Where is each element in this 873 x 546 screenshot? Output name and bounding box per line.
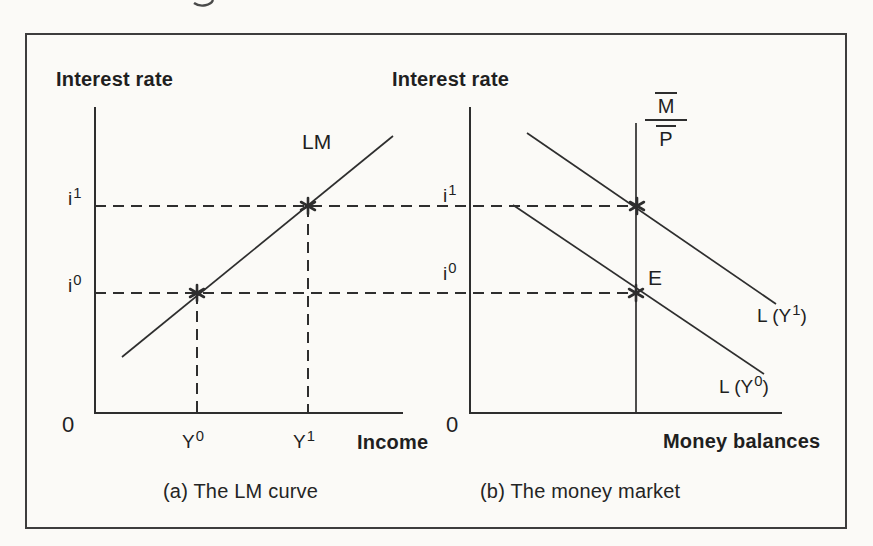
panel-a-y1-base: Y (293, 431, 306, 452)
panel-b-i0-sup: 0 (448, 260, 456, 276)
l-y1-post: ) (800, 305, 806, 326)
equilibrium-label: E (648, 267, 662, 288)
panel-b-x-axis-title: Money balances (663, 431, 820, 451)
panel-b-origin: 0 (446, 414, 458, 436)
panel-a-y0-base: Y (182, 431, 195, 452)
figure-border (25, 33, 847, 529)
panel-a-i0-tick: i0 (68, 276, 81, 295)
panel-a-i1-base: i (68, 188, 72, 209)
cropped-text-artifact (194, 0, 213, 6)
l-y0-pre: L (Y (719, 376, 753, 397)
figure-canvas: Interest rate LM i1 i0 0 Y0 Y1 Income (a… (0, 0, 873, 546)
panel-a-i0-sup: 0 (73, 272, 81, 288)
panel-b-i0-tick: i0 (443, 264, 456, 283)
money-supply-label: M P (645, 92, 687, 149)
l-y1-curve-label: L (Y1) (757, 306, 807, 325)
fraction-bar (645, 119, 687, 121)
l-y0-post: ) (762, 376, 768, 397)
l-y1-sup: 1 (792, 302, 800, 318)
panel-a-origin: 0 (62, 414, 74, 436)
panel-a-y1-sup: 1 (307, 428, 315, 444)
l-y0-curve-label: L (Y0) (719, 377, 769, 396)
money-supply-denominator: P (656, 125, 675, 149)
panel-a-y1-tick: Y1 (293, 432, 315, 451)
panel-b-i1-tick: i1 (443, 186, 456, 205)
panel-a-y0-tick: Y0 (182, 432, 204, 451)
panel-a-y-axis-title: Interest rate (56, 69, 173, 89)
panel-a-i1-sup: 1 (73, 185, 81, 201)
panel-a-y0-sup: 0 (196, 428, 204, 444)
panel-b-i0-base: i (443, 263, 447, 284)
l-y1-pre: L (Y (757, 305, 791, 326)
panel-a-i1-tick: i1 (68, 189, 81, 208)
lm-curve-label: LM (302, 131, 331, 152)
panel-a-i0-base: i (68, 275, 72, 296)
panel-a-x-axis-title: Income (357, 432, 428, 452)
l-y0-sup: 0 (754, 373, 762, 389)
panel-b-caption: (b) The money market (480, 481, 680, 501)
money-supply-numerator: M (655, 92, 678, 116)
panel-b-i1-base: i (443, 185, 447, 206)
panel-a-caption: (a) The LM curve (163, 481, 318, 501)
panel-b-i1-sup: 1 (448, 182, 456, 198)
panel-b-y-axis-title: Interest rate (392, 69, 509, 89)
